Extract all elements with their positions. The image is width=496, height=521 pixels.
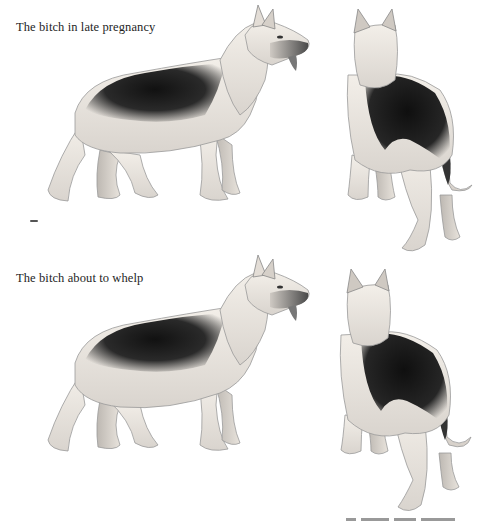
dog-side-illustration [48, 255, 309, 451]
dog-rear-view-late-pregnancy [340, 5, 475, 255]
dog-side-illustration [48, 5, 309, 201]
dog-rear-illustration [340, 269, 471, 511]
dog-side-view-late-pregnancy [40, 5, 315, 210]
dog-rear-illustration [347, 9, 472, 251]
dog-side-view-about-to-whelp [40, 255, 315, 460]
cropped-text-line [346, 512, 496, 521]
stray-mark [30, 220, 38, 222]
dog-rear-view-about-to-whelp [333, 265, 473, 515]
